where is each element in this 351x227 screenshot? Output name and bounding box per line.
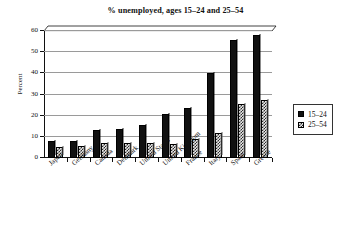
- y-axis-label: Percent: [16, 54, 24, 114]
- plot-area: 0102030405060: [44, 26, 272, 158]
- bar-15-24: [93, 130, 100, 158]
- y-axis-tick-label: 30: [16, 91, 38, 98]
- y-axis-tick-label: 0: [16, 154, 38, 161]
- legend-entry: 15–24: [298, 110, 327, 119]
- bar-group: [116, 31, 135, 158]
- x-axis-tick: [181, 158, 182, 162]
- chart-legend: 15–24 25–54: [293, 104, 333, 135]
- x-axis-tick: [249, 158, 250, 162]
- chart-figure: % unemployed, ages 15–24 and 25–54 Perce…: [0, 0, 351, 227]
- bar-group: [93, 31, 112, 158]
- bar-15-24: [230, 40, 237, 158]
- y-axis-tick-label: 50: [16, 48, 38, 55]
- chart-title: % unemployed, ages 15–24 and 25–54: [0, 6, 351, 15]
- legend-swatch-25-54-icon: [298, 122, 304, 128]
- bar-15-24: [207, 73, 214, 158]
- legend-swatch-15-24-icon: [298, 111, 304, 117]
- bar-group: [230, 31, 249, 158]
- y-axis-tick-label: 40: [16, 69, 38, 76]
- bar-15-24: [139, 125, 146, 158]
- y-axis-tick-label: 10: [16, 133, 38, 140]
- legend-entry: 25–54: [298, 120, 327, 129]
- bar-groups: [44, 31, 272, 158]
- y-axis-tick-label: 60: [16, 27, 38, 34]
- bar-group: [207, 31, 226, 158]
- x-axis-tick: [272, 158, 273, 162]
- bar-15-24: [253, 35, 260, 158]
- bar-group: [253, 31, 272, 158]
- legend-label: 25–54: [308, 120, 327, 129]
- x-axis-tick: [226, 158, 227, 162]
- bar-group: [139, 31, 158, 158]
- y-axis-tick-label: 20: [16, 112, 38, 119]
- x-axis-tick: [204, 158, 205, 162]
- bar-group: [48, 31, 67, 158]
- x-axis-tick: [112, 158, 113, 162]
- x-axis-tick: [67, 158, 68, 162]
- x-axis-tick: [90, 158, 91, 162]
- x-axis-tick: [158, 158, 159, 162]
- bar-group: [70, 31, 89, 158]
- x-axis-tick: [135, 158, 136, 162]
- legend-label: 15–24: [308, 110, 327, 119]
